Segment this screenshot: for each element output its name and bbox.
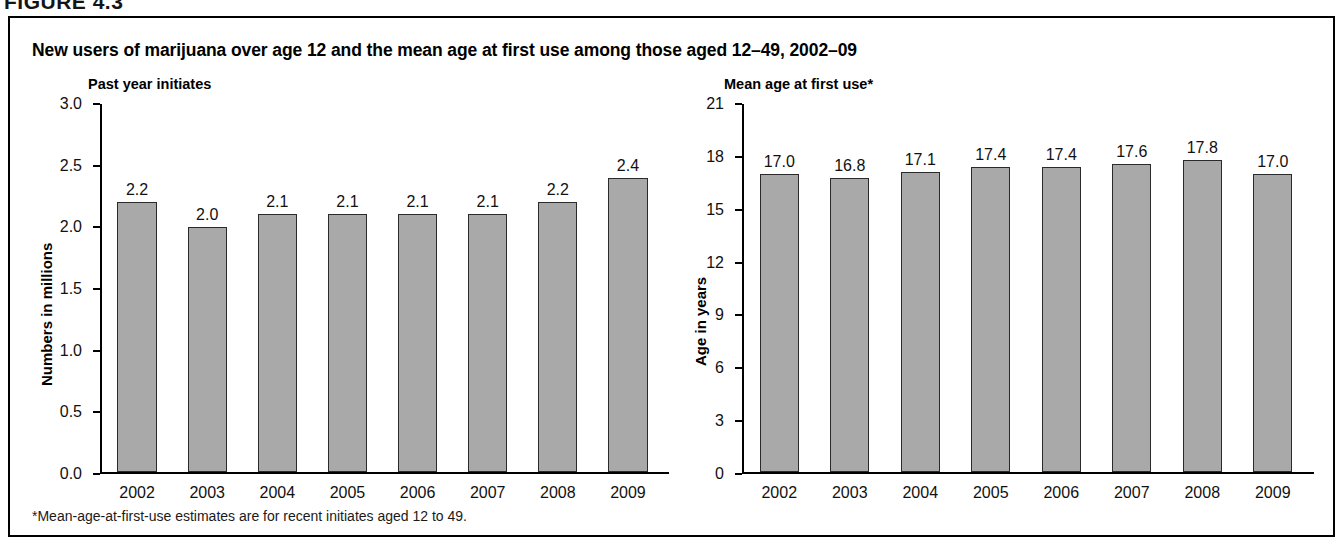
bar-value-label: 2.1 bbox=[399, 193, 436, 211]
y-tick-label-right: 9 bbox=[715, 306, 724, 324]
bar-group-left: 2.220022.020032.120042.120052.120062.120… bbox=[102, 104, 663, 472]
y-tick-right: 3 bbox=[735, 420, 742, 422]
y-tick-label-right: 6 bbox=[715, 359, 724, 377]
y-tick-label-right: 0 bbox=[715, 465, 724, 483]
bar-value-label: 2.1 bbox=[329, 193, 366, 211]
y-tick-right: 9 bbox=[735, 314, 742, 316]
x-axis-label: 2003 bbox=[815, 484, 886, 502]
bar-value-label: 2.1 bbox=[259, 193, 296, 211]
x-axis-line-right bbox=[742, 472, 1314, 474]
x-axis-label: 2009 bbox=[593, 484, 663, 502]
bar[interactable]: 2.1 bbox=[328, 214, 367, 472]
figure-panel: New users of marijuana over age 12 and t… bbox=[8, 16, 1335, 537]
y-tick-label-left: 0.5 bbox=[60, 403, 82, 421]
x-axis-label: 2005 bbox=[312, 484, 382, 502]
y-tick-label-left: 1.5 bbox=[60, 280, 82, 298]
figure-footnote: *Mean-age-at-first-use estimates are for… bbox=[32, 508, 467, 524]
bar-slot: 17.02009 bbox=[1238, 104, 1309, 472]
y-tick-label-right: 21 bbox=[706, 95, 724, 113]
x-axis-label: 2004 bbox=[885, 484, 956, 502]
bar-slot: 17.42006 bbox=[1026, 104, 1097, 472]
x-axis-label: 2002 bbox=[744, 484, 815, 502]
bar-value-label: 17.4 bbox=[1043, 146, 1080, 164]
bar-value-label: 17.8 bbox=[1184, 139, 1221, 157]
bar[interactable]: 17.4 bbox=[971, 167, 1010, 472]
y-tick-right: 21 bbox=[735, 103, 742, 105]
figure-title: New users of marijuana over age 12 and t… bbox=[32, 40, 857, 61]
y-tick-label-right: 12 bbox=[706, 254, 724, 272]
y-tick-left: 2.5 bbox=[93, 165, 100, 167]
bar[interactable]: 17.0 bbox=[760, 174, 799, 472]
bar-value-label: 17.1 bbox=[902, 151, 939, 169]
bar[interactable]: 2.1 bbox=[468, 214, 507, 472]
bar[interactable]: 2.0 bbox=[188, 227, 227, 472]
bar-slot: 2.22008 bbox=[523, 104, 593, 472]
bar[interactable]: 2.2 bbox=[538, 202, 577, 472]
bar-value-label: 17.0 bbox=[761, 153, 798, 171]
y-tick-left: 1.0 bbox=[93, 350, 100, 352]
bar-slot: 17.02002 bbox=[744, 104, 815, 472]
bar-slot: 2.12004 bbox=[242, 104, 312, 472]
bar-value-label: 2.2 bbox=[539, 181, 576, 199]
x-axis-line-left bbox=[100, 472, 669, 474]
bar-value-label: 17.6 bbox=[1113, 143, 1150, 161]
y-tick-left: 3.0 bbox=[93, 103, 100, 105]
y-tick-label-left: 2.5 bbox=[60, 157, 82, 175]
bar[interactable]: 16.8 bbox=[830, 178, 869, 472]
y-tick-left: 0.0 bbox=[93, 473, 100, 475]
chart-subtitle-right: Mean age at first use* bbox=[724, 76, 873, 92]
x-axis-label: 2002 bbox=[102, 484, 172, 502]
y-tick-right: 15 bbox=[735, 209, 742, 211]
bar[interactable]: 17.1 bbox=[901, 172, 940, 472]
bar-value-label: 17.0 bbox=[1254, 153, 1291, 171]
y-tick-label-right: 15 bbox=[706, 201, 724, 219]
bar[interactable]: 2.1 bbox=[258, 214, 297, 472]
bar-slot: 17.42005 bbox=[956, 104, 1027, 472]
chart-subtitle-left: Past year initiates bbox=[88, 76, 211, 92]
bar-value-label: 17.4 bbox=[972, 146, 1009, 164]
bar[interactable]: 2.4 bbox=[608, 178, 647, 472]
x-axis-label: 2006 bbox=[383, 484, 453, 502]
y-tick-right: 18 bbox=[735, 156, 742, 158]
bar-slot: 17.12004 bbox=[885, 104, 956, 472]
bar-slot: 2.12005 bbox=[312, 104, 382, 472]
bar-slot: 17.62007 bbox=[1097, 104, 1168, 472]
x-axis-label: 2005 bbox=[956, 484, 1027, 502]
bar-slot: 17.82008 bbox=[1167, 104, 1238, 472]
bar-value-label: 2.1 bbox=[469, 193, 506, 211]
plot-area-right: 17.0200216.8200317.1200417.4200517.42006… bbox=[742, 104, 1308, 474]
bar-value-label: 16.8 bbox=[831, 157, 868, 175]
x-axis-label: 2009 bbox=[1238, 484, 1309, 502]
bar-value-label: 2.0 bbox=[189, 206, 226, 224]
y-tick-left: 2.0 bbox=[93, 226, 100, 228]
x-axis-label: 2008 bbox=[523, 484, 593, 502]
x-axis-label: 2003 bbox=[172, 484, 242, 502]
bar-slot: 2.42009 bbox=[593, 104, 663, 472]
bar[interactable]: 17.6 bbox=[1112, 164, 1151, 472]
bar[interactable]: 2.1 bbox=[398, 214, 437, 472]
bar[interactable]: 17.4 bbox=[1042, 167, 1081, 472]
bar-value-label: 2.2 bbox=[118, 181, 155, 199]
y-tick-right: 6 bbox=[735, 367, 742, 369]
bar-group-right: 17.0200216.8200317.1200417.4200517.42006… bbox=[744, 104, 1308, 472]
figure-page: FIGURE 4.3 New users of marijuana over a… bbox=[0, 0, 1343, 545]
bar-slot: 2.02003 bbox=[172, 104, 242, 472]
bar[interactable]: 17.8 bbox=[1183, 160, 1222, 472]
y-tick-label-right: 3 bbox=[715, 412, 724, 430]
y-tick-label-right: 18 bbox=[706, 148, 724, 166]
y-tick-label-left: 3.0 bbox=[60, 95, 82, 113]
bar[interactable]: 17.0 bbox=[1253, 174, 1292, 472]
figure-number: FIGURE 4.3 bbox=[4, 0, 123, 14]
x-axis-label: 2007 bbox=[1097, 484, 1168, 502]
bar-slot: 2.12007 bbox=[453, 104, 523, 472]
y-tick-label-left: 1.0 bbox=[60, 342, 82, 360]
plot-area-left: 2.220022.020032.120042.120052.120062.120… bbox=[100, 104, 663, 474]
x-axis-label: 2008 bbox=[1167, 484, 1238, 502]
bar-value-label: 2.4 bbox=[609, 157, 646, 175]
bar-slot: 16.82003 bbox=[815, 104, 886, 472]
y-tick-left: 0.5 bbox=[93, 411, 100, 413]
y-tick-label-left: 2.0 bbox=[60, 218, 82, 236]
x-axis-label: 2004 bbox=[242, 484, 312, 502]
bar[interactable]: 2.2 bbox=[117, 202, 156, 472]
x-axis-label: 2006 bbox=[1026, 484, 1097, 502]
